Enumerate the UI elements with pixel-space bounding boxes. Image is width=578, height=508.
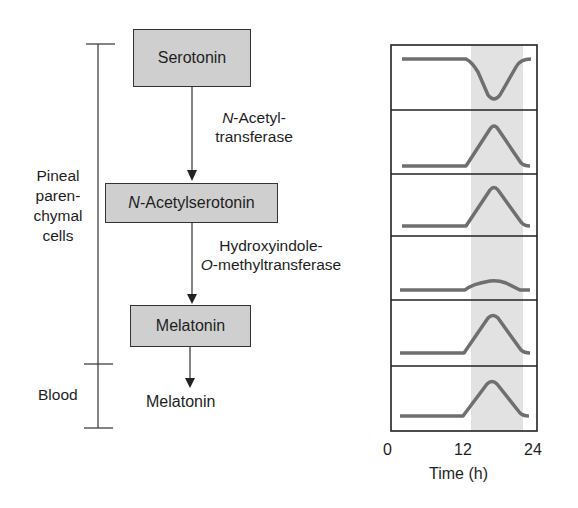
serotonin-box: Serotonin	[133, 29, 251, 87]
x-tick-0: 0	[383, 440, 392, 459]
blood-melatonin-label: Melatonin	[146, 392, 215, 411]
n-acetylserotonin-label: N-Acetylserotonin	[128, 194, 254, 212]
time-course-chart	[391, 45, 537, 431]
dark-period-shading	[471, 45, 523, 431]
compartment-pineal-cells: Pineal paren- chymal cells	[22, 166, 94, 246]
melatonin-label: Melatonin	[156, 317, 225, 335]
enzyme-hydroxyindole-o-methyltransferase: Hydroxyindole- O-methyltransferase	[196, 236, 346, 274]
arrow-down-icon	[185, 347, 195, 388]
x-axis-label: Time (h)	[429, 464, 488, 483]
serotonin-label: Serotonin	[158, 49, 227, 67]
x-tick-24: 24	[524, 440, 542, 459]
compartment-blood: Blood	[38, 385, 78, 404]
n-acetylserotonin-box: N-Acetylserotonin	[105, 183, 278, 223]
melatonin-box: Melatonin	[130, 305, 251, 347]
enzyme-n-acetyltransferase: N-Acetyl- transferase	[199, 108, 309, 146]
x-tick-12: 12	[454, 440, 472, 459]
arrow-down-icon	[187, 87, 197, 181]
